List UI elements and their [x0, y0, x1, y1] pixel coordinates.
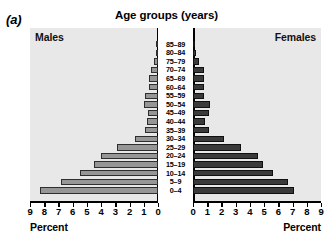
population-pyramid-figure: (a) Age groups (years) Males Females 85–…	[0, 0, 333, 241]
male-bar-cell	[30, 186, 158, 195]
male-bar	[145, 127, 158, 133]
female-bar-cell	[193, 126, 321, 135]
axis-tick-label: 4	[99, 206, 104, 217]
male-bar	[144, 101, 158, 107]
axis-tick-label: 9	[318, 206, 323, 217]
axis-tick-label: 2	[127, 206, 132, 217]
pyramid-row: 0–4	[30, 186, 321, 195]
axis-tick-label: 3	[113, 206, 118, 217]
female-bar-cell	[193, 178, 321, 187]
axis-tick-label: 4	[247, 206, 252, 217]
pyramid-row: 5–9	[30, 178, 321, 187]
female-bar-cell	[193, 74, 321, 83]
female-bar	[193, 187, 294, 193]
age-group-label: 65–69	[158, 74, 193, 83]
male-bar-cell	[30, 100, 158, 109]
right-axis-title: Percent	[283, 221, 321, 233]
male-bar	[151, 67, 158, 73]
axis-tick-label: 2	[219, 206, 224, 217]
axis-tick-label: 6	[70, 206, 75, 217]
age-group-label: 30–34	[158, 135, 193, 144]
female-bar	[193, 84, 204, 90]
age-group-label: 55–59	[158, 92, 193, 101]
male-bar-cell	[30, 178, 158, 187]
female-bar	[193, 179, 288, 185]
female-bar-cell	[193, 169, 321, 178]
pyramid-row: 30–34	[30, 135, 321, 144]
axis-tick-label: 3	[233, 206, 238, 217]
plot-area: Males Females 85–8980–8475–7970–7465–696…	[30, 28, 321, 201]
axis-tick-label: 6	[276, 206, 281, 217]
male-bar-cell	[30, 160, 158, 169]
female-bar-cell	[193, 100, 321, 109]
female-bar	[193, 93, 204, 99]
axis-tick-label: 7	[56, 206, 61, 217]
right-axis-ticklabels: 0123456789	[193, 206, 321, 218]
axis-tick-label: 7	[290, 206, 295, 217]
female-bar	[193, 127, 209, 133]
age-group-label: 0–4	[158, 186, 193, 195]
male-bar	[145, 93, 159, 99]
female-bar	[193, 170, 273, 176]
female-bar	[193, 118, 205, 124]
male-bar-cell	[30, 66, 158, 75]
age-group-label: 5–9	[158, 178, 193, 187]
female-bar-cell	[193, 57, 321, 66]
pyramid-row: 15–19	[30, 160, 321, 169]
male-bar	[80, 170, 158, 176]
female-bar-cell	[193, 66, 321, 75]
male-bar-cell	[30, 169, 158, 178]
female-bar-cell	[193, 117, 321, 126]
axis-tick-label: 9	[27, 206, 32, 217]
male-bar	[149, 75, 158, 81]
male-bar	[40, 187, 158, 193]
pyramid-row: 80–84	[30, 49, 321, 58]
male-bar	[101, 153, 158, 159]
female-bar-cell	[193, 152, 321, 161]
male-bar-cell	[30, 143, 158, 152]
axis-tick-label: 8	[304, 206, 309, 217]
male-bar-cell	[30, 92, 158, 101]
male-bar	[156, 50, 158, 56]
axis-tick-label: 8	[42, 206, 47, 217]
female-bar-cell	[193, 143, 321, 152]
male-bar	[154, 58, 158, 64]
male-bar-cell	[30, 40, 158, 49]
female-bar	[193, 136, 224, 142]
female-bar-cell	[193, 40, 321, 49]
male-bar-cell	[30, 74, 158, 83]
male-bar-cell	[30, 83, 158, 92]
axis-tick-label: 5	[262, 206, 267, 217]
male-bar-cell	[30, 49, 158, 58]
female-bar	[193, 110, 209, 116]
male-bar	[148, 110, 158, 116]
male-bar-cell	[30, 135, 158, 144]
male-bar	[156, 41, 158, 47]
male-bar-cell	[30, 117, 158, 126]
female-bar	[193, 67, 204, 73]
left-axis-title: Percent	[30, 221, 68, 233]
pyramid-row: 40–44	[30, 117, 321, 126]
age-group-label: 80–84	[158, 49, 193, 58]
axis-tick-label: 1	[205, 206, 210, 217]
female-bar-cell	[193, 109, 321, 118]
female-bar	[193, 153, 258, 159]
female-bar-cell	[193, 49, 321, 58]
male-bar	[61, 179, 158, 185]
female-bar-cell	[193, 160, 321, 169]
male-bar-cell	[30, 57, 158, 66]
female-bar	[193, 75, 204, 81]
male-bar	[135, 136, 158, 142]
axis-tick-label: 0	[190, 206, 195, 217]
age-group-label: 15–19	[158, 160, 193, 169]
female-bar	[193, 144, 241, 150]
left-axis-ticklabels: 9876543210	[30, 206, 158, 218]
female-bar-cell	[193, 92, 321, 101]
female-bar	[193, 58, 199, 64]
female-bar	[193, 50, 196, 56]
male-bar	[94, 161, 158, 167]
male-bar	[117, 144, 158, 150]
female-bar-cell	[193, 186, 321, 195]
pyramid-rows: 85–8980–8475–7970–7465–6960–6455–5950–54…	[30, 40, 321, 200]
male-bar-cell	[30, 109, 158, 118]
